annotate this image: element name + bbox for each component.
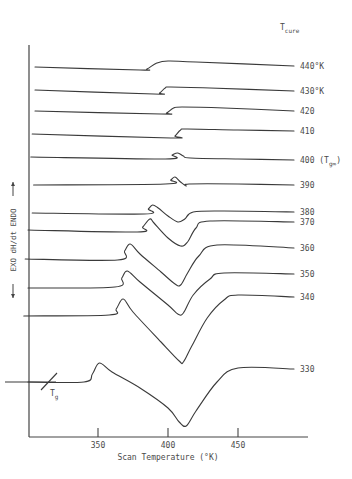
series-label: 380 <box>300 208 315 217</box>
legend-header: Tcure <box>280 23 300 34</box>
trace-410 <box>32 129 294 138</box>
series-label: 360 <box>300 244 315 253</box>
x-axis-label: Scan Temperature (°K) <box>117 453 218 462</box>
trace-430K <box>35 87 294 94</box>
series-label: 370 <box>300 218 315 227</box>
series-label: 410 <box>300 127 315 136</box>
series-label: 440°K <box>300 62 324 71</box>
traces <box>24 61 294 427</box>
endo-arrowhead-icon <box>11 182 15 186</box>
x-tick-label: 450 <box>231 441 246 450</box>
series-label: 390 <box>300 181 315 190</box>
x-ticks: 350400450 <box>91 428 246 450</box>
x-tick-label: 400 <box>161 441 176 450</box>
trace-380 <box>32 205 294 222</box>
series-labels: 440°K430°K420410400 (Tg∞)390380370360350… <box>300 62 341 374</box>
series-label: 420 <box>300 107 315 116</box>
series-label: 400 (Tg∞) <box>300 156 341 168</box>
trace-400 <box>31 153 294 160</box>
trace-390 <box>34 177 294 186</box>
trace-360 <box>25 244 294 286</box>
x-tick-label: 350 <box>91 441 106 450</box>
dsc-chart: 350400450 440°K430°K420410400 (Tg∞)39038… <box>0 0 352 479</box>
series-label: 430°K <box>300 87 324 96</box>
y-axis-label-group: EXO dH/dt ENDO <box>9 182 18 298</box>
trace-330 <box>28 363 294 427</box>
trace-440K <box>35 61 294 70</box>
trace-370 <box>28 219 294 246</box>
trace-420 <box>35 107 294 114</box>
tg-annotation: Tg <box>5 373 59 401</box>
trace-350 <box>28 271 294 315</box>
trace-340 <box>24 295 294 364</box>
series-label: 330 <box>300 365 315 374</box>
series-label: 340 <box>300 293 315 302</box>
y-axis-label: EXO dH/dt ENDO <box>9 208 18 272</box>
exo-arrowhead-icon <box>11 294 15 298</box>
series-label: 350 <box>300 270 315 279</box>
tg-label: Tg <box>50 389 59 401</box>
